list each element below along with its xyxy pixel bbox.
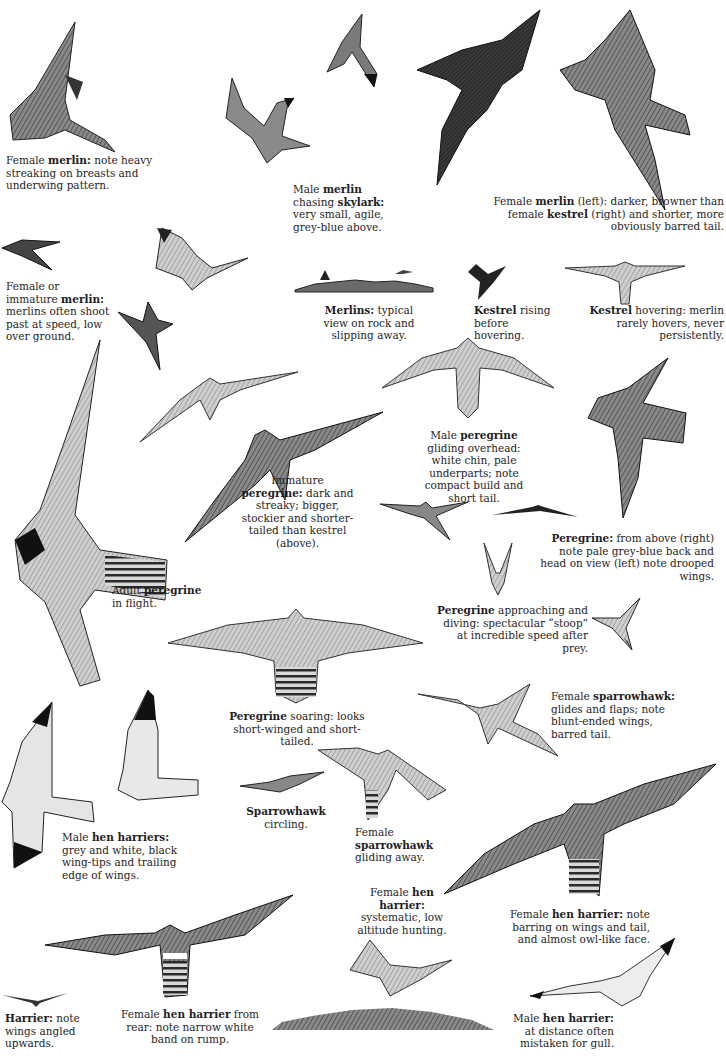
moorland-ground-illustration — [272, 1000, 494, 1030]
caption-text: Female or immature — [6, 280, 61, 305]
caption-text: Adult — [112, 584, 144, 596]
peregrine-distant-illustration — [492, 505, 578, 519]
species-name: Peregrine — [437, 604, 495, 616]
male-hen-harrier-2-illustration — [108, 690, 202, 812]
peregrine-head-on-illustration — [380, 500, 468, 540]
caption-female-hen-harrier-barring: Female hen harrier: note barring on wing… — [500, 908, 650, 946]
species-name: peregrine: — [241, 487, 302, 499]
caption-text: gliding overhead: white chin, pale under… — [425, 442, 524, 504]
caption-female-sparrowhawk: Female sparrowhawk: glides and flaps; no… — [551, 690, 691, 740]
species-name: sparrowhawk — [355, 839, 433, 851]
female-merlin-underside-illustration — [5, 20, 120, 148]
caption-merlin-vs-kestrel: Female merlin (left): darker, browner th… — [470, 195, 726, 233]
female-hen-harrier-rear-illustration — [45, 895, 293, 997]
caption-text: glides and flaps; note blunt-ended wings… — [551, 703, 665, 740]
caption-female-hen-harrier-hunting: Female hen harrier: systematic, low alti… — [352, 886, 452, 936]
caption-text: Immature — [271, 474, 324, 486]
caption-text: Female — [510, 908, 552, 920]
caption-merlins-on-rock: Merlins: typical view on rock and slippi… — [315, 304, 423, 342]
species-name: peregrine — [144, 584, 201, 596]
caption-text: hovering: merlin rarely hovers, never pe… — [616, 304, 724, 341]
caption-peregrine-stoop: Peregrine approaching and diving: specta… — [436, 604, 588, 654]
caption-text: (right) and shorter, more obviously barr… — [588, 208, 724, 233]
caption-text: Female — [551, 690, 593, 702]
caption-text: grey and white, black wing-tips and trai… — [62, 844, 177, 881]
merlin-low-over-ground-illustration — [2, 238, 62, 272]
species-name: Harrier: — [5, 1012, 53, 1024]
peregrine-from-above-illustration — [588, 358, 686, 520]
caption-text: Female — [121, 1008, 163, 1020]
caption-text: Female — [493, 195, 535, 207]
species-name: merlin: — [48, 154, 91, 166]
species-name: hen harriers: — [92, 831, 169, 843]
kestrel-hovering-illustration — [565, 262, 685, 306]
peregrine-stoop-front-illustration — [480, 543, 516, 595]
species-name: merlin: — [61, 293, 104, 305]
caption-harrier-wings: Harrier: note wings angled upwards. — [5, 1012, 85, 1050]
caption-text: Male — [62, 831, 92, 843]
kestrel-rising-illustration — [468, 264, 508, 300]
species-name: Kestrel — [474, 304, 517, 316]
male-hen-harrier-distant-illustration — [530, 936, 678, 1006]
caption-immature-peregrine: Immature peregrine: dark and streaky; bi… — [240, 474, 355, 550]
species-name: Peregrine — [229, 710, 287, 722]
male-peregrine-gliding-illustration — [382, 338, 554, 418]
caption-female-sparrowhawk-gliding: Female sparrowhawk gliding away. — [355, 826, 431, 864]
species-name: peregrine — [460, 429, 517, 441]
female-merlin-dark-illustration — [412, 10, 542, 185]
merlin-on-rock-illustration — [295, 266, 435, 294]
species-name: hen harrier — [163, 1008, 230, 1020]
female-hen-harrier-spread-illustration — [444, 764, 716, 896]
caption-text: chasing — [293, 196, 337, 208]
caption-male-hen-harriers: Male hen harriers: grey and white, black… — [62, 831, 180, 881]
caption-text: Female — [355, 826, 394, 838]
female-hen-harrier-hunting-illustration — [350, 940, 452, 996]
caption-text: systematic, low altitude hunting. — [357, 911, 446, 936]
caption-female-hen-harrier-rear: Female hen harrier from rear: note narro… — [120, 1008, 260, 1046]
female-sparrowhawk-gliding-away-illustration — [318, 740, 446, 820]
species-name: hen harrier: — [543, 1012, 614, 1024]
caption-text: at distance often mistaken for gull. — [520, 1025, 614, 1050]
species-name: Peregrine: — [552, 532, 614, 544]
caption-male-merlin-skylark: Male merlin chasing skylark: very small,… — [293, 183, 393, 233]
caption-kestrel-hovering: Kestrel hovering: merlin rarely hovers, … — [570, 304, 724, 342]
peregrine-stoop-side-illustration — [592, 598, 640, 650]
species-name: skylark: — [337, 196, 384, 208]
species-name: Kestrel — [589, 304, 632, 316]
caption-text: Male — [293, 183, 323, 195]
harrier-distant-illustration — [2, 993, 68, 1007]
species-name: merlin — [535, 195, 574, 207]
caption-sparrowhawk-circling: Sparrowhawk circling. — [240, 805, 332, 830]
species-name: Sparrowhawk — [246, 805, 326, 817]
caption-peregrine-soaring: Peregrine soaring: looks short-winged an… — [222, 710, 372, 748]
species-name: hen harrier: — [552, 908, 623, 920]
caption-text: circling. — [264, 818, 308, 830]
caption-merlin-low-over-ground: Female or immature merlin: merlins often… — [6, 280, 114, 343]
species-name: merlin — [323, 183, 362, 195]
caption-text: Female — [370, 886, 412, 898]
species-name: kestrel — [547, 208, 588, 220]
species-name: sparrowhawk: — [593, 690, 675, 702]
caption-peregrine-from-above: Peregrine: from above (right) note pale … — [530, 532, 714, 582]
caption-male-peregrine-gliding: Male peregrine gliding overhead: white c… — [415, 429, 533, 505]
caption-female-merlin: Female merlin: note heavy streaking on b… — [6, 154, 156, 192]
caption-adult-peregrine: Adult peregrine in flight. — [112, 584, 202, 609]
sparrowhawk-circling-illustration — [240, 772, 324, 794]
caption-text: gliding away. — [355, 851, 425, 863]
caption-text: merlins often shoot past at speed, low o… — [6, 305, 109, 342]
caption-text: in flight. — [112, 597, 157, 609]
caption-kestrel-rising: Kestrel rising before hovering. — [474, 304, 554, 342]
caption-text: very small, agile, grey-blue above. — [293, 208, 384, 233]
caption-male-hen-harrier-distant: Male hen harrier: at distance often mist… — [500, 1012, 614, 1050]
skylark-illustration — [222, 78, 312, 166]
female-kestrel-illustration — [555, 10, 695, 210]
caption-text: Male — [430, 429, 460, 441]
male-merlin-illustration — [322, 12, 377, 87]
merlin-banking-illustration — [152, 228, 250, 290]
peregrine-soaring-illustration — [168, 603, 423, 703]
species-name: Merlins: — [325, 304, 374, 316]
caption-text: Female — [6, 154, 48, 166]
caption-text: Male — [513, 1012, 543, 1024]
